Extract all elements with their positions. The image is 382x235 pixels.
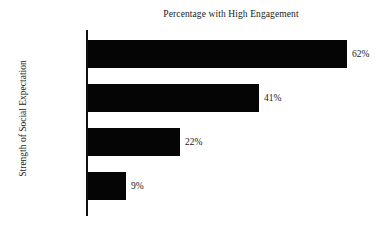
- bar-value-label: 41%: [264, 93, 281, 104]
- chart-title: Percentage with High Engagement: [86, 8, 376, 20]
- bar-chart: Percentage with High Engagement Strength…: [0, 0, 382, 235]
- plot-area: Strong 62% Moderate 41% Mild 22% Weak 9%: [86, 30, 382, 216]
- bar-value-label: 22%: [185, 137, 202, 148]
- bar[interactable]: [88, 40, 347, 68]
- bar[interactable]: [88, 172, 126, 200]
- bar[interactable]: [88, 128, 180, 156]
- bar[interactable]: [88, 84, 259, 112]
- bar-value-label: 62%: [352, 49, 369, 60]
- bar-value-label: 9%: [131, 181, 144, 192]
- y-axis-title: Strength of Social Expectation: [18, 34, 29, 204]
